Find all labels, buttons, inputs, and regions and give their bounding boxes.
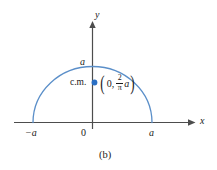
fraction-denominator: π — [118, 84, 122, 92]
x-axis-arrowhead — [188, 119, 196, 125]
coord-radius-symbol: a — [123, 78, 129, 89]
origin-label: 0 — [81, 128, 86, 138]
coord-open-paren: ( — [100, 75, 104, 92]
figure-caption: (b) — [99, 150, 111, 161]
x-axis-label: x — [200, 116, 204, 126]
x-tick-label-negative-a: −a — [25, 128, 37, 138]
x-tick-label-a: a — [149, 128, 154, 138]
coord-close-paren: ) — [130, 75, 134, 92]
y-axis-label: y — [95, 10, 99, 20]
center-of-mass-label: c.m. — [70, 78, 86, 88]
y-tick-label-a: a — [80, 57, 85, 67]
fraction-numerator: 2 — [118, 74, 122, 82]
center-of-mass-coordinates: ( 0 , 2 π a ) — [99, 74, 136, 92]
y-axis-arrowhead — [89, 21, 95, 28]
figure-semicircle-center-of-mass: y x a −a 0 a c.m. ( 0 , 2 π a ) (b) — [0, 0, 217, 170]
center-of-mass-point — [92, 80, 98, 86]
coord-fraction: 2 π — [116, 74, 123, 92]
